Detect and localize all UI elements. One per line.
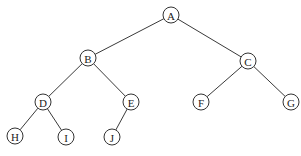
edge-a-c <box>178 19 241 57</box>
tree-node-e: E <box>123 94 139 110</box>
node-label: F <box>198 97 204 109</box>
node-label: B <box>84 53 91 65</box>
node-label: D <box>39 97 47 109</box>
tree-node-g: G <box>283 94 299 110</box>
tree-node-h: H <box>7 128 23 144</box>
tree-node-a: A <box>163 7 179 23</box>
node-label: H <box>11 131 19 143</box>
edge-d-h <box>20 108 38 130</box>
node-label: E <box>128 97 135 109</box>
edge-c-f <box>207 66 242 96</box>
edge-b-e <box>94 64 126 97</box>
node-label: I <box>64 132 68 144</box>
tree-edges <box>20 19 285 131</box>
node-label: J <box>110 132 115 144</box>
edge-b-d <box>49 64 83 97</box>
tree-node-j: J <box>104 129 120 145</box>
tree-node-i: I <box>58 129 74 145</box>
binary-tree-diagram: ABCDEFGHIJ <box>0 0 301 156</box>
node-label: G <box>287 97 295 109</box>
node-label: C <box>244 56 251 68</box>
tree-node-c: C <box>240 53 256 69</box>
edge-e-j <box>116 109 127 130</box>
node-label: A <box>167 10 175 22</box>
edge-c-g <box>254 67 285 97</box>
edge-a-b <box>95 19 164 55</box>
edge-d-i <box>47 109 61 131</box>
tree-node-d: D <box>35 94 51 110</box>
tree-node-f: F <box>193 94 209 110</box>
tree-nodes: ABCDEFGHIJ <box>7 7 299 145</box>
tree-node-b: B <box>80 50 96 66</box>
